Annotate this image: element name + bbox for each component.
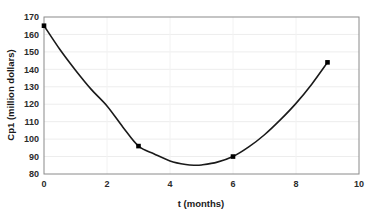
y-axis-title: Cp1 (million dollars) [5, 49, 16, 140]
plot-area-background [44, 17, 359, 174]
y-tick-label: 170 [24, 12, 39, 22]
y-tick-label: 160 [24, 30, 39, 40]
x-tick-label: 0 [41, 179, 46, 189]
x-axis-title: t (months) [178, 198, 224, 209]
chart-container: 8090100110120130140150160170 0246810 Cp1… [0, 0, 387, 215]
x-tick-label: 4 [167, 179, 172, 189]
line-chart: 8090100110120130140150160170 0246810 Cp1… [0, 0, 387, 215]
x-tick-label: 8 [293, 179, 298, 189]
y-tick-label: 120 [24, 99, 39, 109]
y-tick-label: 100 [24, 134, 39, 144]
x-tick-label: 10 [354, 179, 364, 189]
data-point-marker [42, 23, 47, 28]
y-tick-label: 90 [29, 152, 39, 162]
x-axis-tick-labels: 0246810 [41, 179, 364, 189]
y-tick-label: 80 [29, 169, 39, 179]
y-axis-tick-labels: 8090100110120130140150160170 [24, 12, 39, 179]
y-tick-label: 130 [24, 82, 39, 92]
x-tick-label: 6 [230, 179, 235, 189]
y-tick-label: 140 [24, 65, 39, 75]
data-point-marker [325, 60, 330, 65]
y-tick-label: 110 [24, 117, 39, 127]
y-tick-label: 150 [24, 47, 39, 57]
data-point-marker [231, 154, 236, 159]
x-tick-label: 2 [104, 179, 109, 189]
data-point-marker [136, 144, 141, 149]
